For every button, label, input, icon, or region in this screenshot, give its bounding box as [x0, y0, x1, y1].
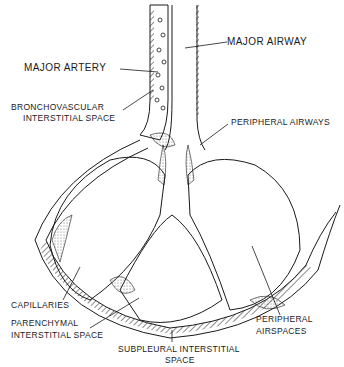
label-parenchymal-line2: INTERSTITIAL SPACE [11, 330, 103, 341]
major-airway-shape [165, 5, 205, 150]
label-major-artery: MAJOR ARTERY [24, 62, 106, 73]
diagram-artwork [0, 0, 344, 367]
label-bronchovascular-line2: INTERSTITIAL SPACE [23, 113, 115, 124]
label-capillaries: CAPILLARIES [11, 300, 69, 311]
lung-interstitium-diagram: MAJOR ARTERY MAJOR AIRWAY BRONCHOVASCULA… [0, 0, 344, 367]
label-bronchovascular-line1: BRONCHOVASCULAR [11, 102, 104, 113]
label-parenchymal-line1: PARENCHYMAL [11, 318, 78, 329]
major-artery-shape [140, 5, 168, 140]
label-subpleural-line2: SPACE [165, 355, 195, 366]
label-subpleural-line1: SUBPLEURAL INTERSTITIAL [118, 344, 240, 355]
label-peripheral-airspaces-line1: PERIPHERAL [256, 314, 313, 325]
interstitial-stipple [52, 133, 285, 309]
label-peripheral-airways: PERIPHERAL AIRWAYS [231, 117, 330, 128]
label-major-airway: MAJOR AIRWAY [227, 36, 307, 47]
label-peripheral-airspaces-line2: AIRSPACES [256, 326, 307, 337]
